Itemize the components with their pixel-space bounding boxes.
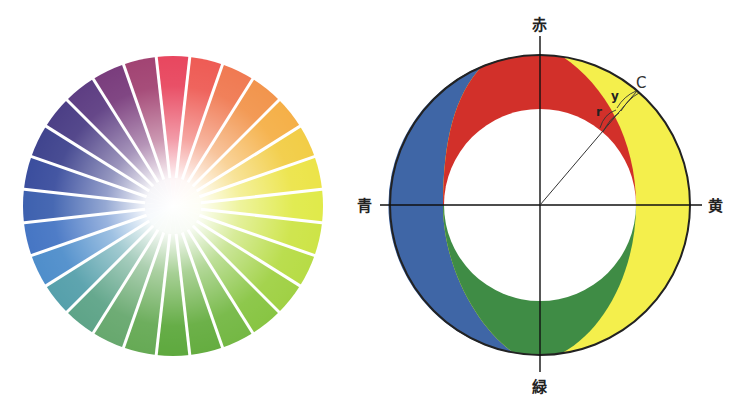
label-yellow-ki: 黄 [708, 197, 723, 215]
opponent-color-diagram: 赤 緑 黄 青 C y r [357, 16, 723, 396]
hue-color-wheel [22, 55, 324, 357]
label-arc-y: y [611, 89, 619, 103]
label-point-c: C [636, 74, 646, 92]
label-green-midori: 緑 [532, 378, 548, 396]
label-blue-ao: 青 [357, 197, 372, 215]
label-red-aka: 赤 [532, 16, 547, 34]
label-arc-r: r [596, 105, 602, 119]
figure-canvas: 赤 緑 黄 青 C y r [0, 0, 742, 413]
